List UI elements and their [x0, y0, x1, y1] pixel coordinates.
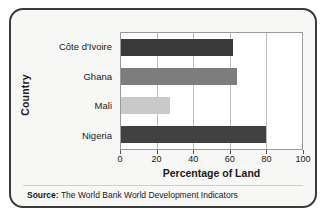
bar-row — [121, 91, 302, 120]
x-axis-tick-label: 0 — [117, 154, 122, 164]
source-text: The World Bank World Development Indicat… — [61, 190, 238, 200]
y-axis-title-text: Country — [19, 74, 31, 116]
bar — [121, 97, 170, 114]
plot-area — [120, 32, 303, 150]
y-axis-title: Country — [17, 52, 33, 138]
category-label: Côte d'Ivoire — [33, 32, 117, 62]
category-labels: Côte d'IvoireGhanaMaliNigeria — [33, 32, 117, 150]
x-axis-tick-label: 60 — [225, 154, 235, 164]
category-label: Nigeria — [33, 121, 117, 151]
x-axis-tick-label: 80 — [261, 154, 271, 164]
bar — [121, 126, 266, 143]
footer-divider — [23, 185, 303, 186]
source-note: Source: The World Bank World Development… — [27, 190, 303, 200]
category-label: Ghana — [33, 62, 117, 92]
bar-row — [121, 120, 302, 149]
chart-card: Country Côte d'IvoireGhanaMaliNigeria 02… — [9, 8, 317, 208]
bar — [121, 39, 233, 56]
bar — [121, 68, 237, 85]
bar-row — [121, 62, 302, 91]
x-axis-tick-label: 40 — [188, 154, 198, 164]
x-axis-title: Percentage of Land — [120, 167, 303, 179]
source-label: Source: — [27, 190, 59, 200]
bar-row — [121, 33, 302, 62]
x-axis-tick-label: 100 — [295, 154, 310, 164]
category-label: Mali — [33, 91, 117, 121]
x-axis-tick-label: 20 — [152, 154, 162, 164]
x-axis-tick-labels: 020406080100 — [120, 154, 303, 167]
bar-chart: Country Côte d'IvoireGhanaMaliNigeria 02… — [11, 10, 315, 175]
bars-group — [121, 33, 302, 149]
